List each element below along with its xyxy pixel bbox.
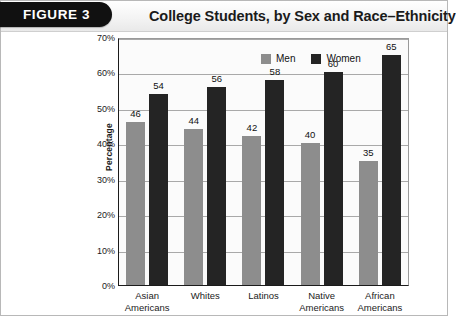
y-axis-tick-label: 20% (97, 210, 115, 220)
bar-value-label: 58 (270, 66, 281, 77)
bar-men[interactable]: 40 (301, 143, 320, 285)
x-axis-tick-label: NativeAmericans (299, 290, 344, 313)
bar-group: 4654 (119, 39, 177, 285)
bar-women[interactable]: 54 (149, 94, 168, 285)
x-axis-tick-label: AfricanAmericans (357, 290, 402, 313)
y-axis-tick-label: 0% (102, 281, 115, 291)
bar-value-label: 40 (305, 129, 316, 140)
chart-legend: MenWomen (261, 53, 361, 64)
figure-number-label: FIGURE 3 (23, 7, 90, 22)
bar-women[interactable]: 58 (265, 80, 284, 285)
bars-layer: 46544456425840603565 (119, 39, 408, 285)
bar-group: 4456 (177, 39, 235, 285)
bar-group: 4258 (235, 39, 293, 285)
bar-value-label: 42 (247, 122, 258, 133)
x-axis-tick-labels: AsianAmericansWhitesLatinosNativeAmerica… (118, 290, 409, 316)
y-axis-tick-labels: 0%10%20%30%40%50%60%70% (75, 38, 115, 286)
y-axis-tick-label: 30% (97, 175, 115, 185)
legend-item-women[interactable]: Women (311, 53, 360, 64)
legend-swatch-icon (311, 54, 321, 64)
bar-value-label: 35 (363, 147, 374, 158)
figure-title: College Students, by Sex and Race–Ethnic… (149, 1, 456, 31)
x-axis-tick-label: AsianAmericans (125, 290, 170, 313)
bar-men[interactable]: 46 (126, 122, 145, 285)
legend-item-men[interactable]: Men (261, 53, 295, 64)
bar-men[interactable]: 42 (242, 136, 261, 285)
bar-value-label: 44 (188, 115, 199, 126)
legend-label: Women (326, 53, 360, 64)
legend-label: Men (276, 53, 295, 64)
chart-area: Percentage 0%10%20%30%40%50%60%70% 46544… (1, 32, 447, 315)
y-axis-tick-label: 50% (97, 104, 115, 114)
y-axis-tick-label: 60% (97, 68, 115, 78)
bar-value-label: 46 (130, 108, 141, 119)
bar-value-label: 54 (153, 80, 164, 91)
bar-group: 3565 (352, 39, 409, 285)
legend-swatch-icon (261, 54, 271, 64)
bar-value-label: 56 (211, 73, 222, 84)
x-axis-tick-label: Whites (191, 290, 220, 302)
bar-group: 4060 (294, 39, 352, 285)
bar-women[interactable]: 60 (324, 72, 343, 285)
x-axis-tick-label: Latinos (248, 290, 279, 302)
bar-women[interactable]: 65 (382, 55, 401, 285)
y-axis-tick-label: 10% (97, 246, 115, 256)
bar-women[interactable]: 56 (207, 87, 226, 285)
figure-number-badge: FIGURE 3 (0, 2, 112, 27)
y-axis-tick-label: 70% (97, 33, 115, 43)
plot-area: 46544456425840603565 MenWomen (118, 38, 409, 286)
bar-men[interactable]: 44 (184, 129, 203, 285)
bar-men[interactable]: 35 (359, 161, 378, 285)
bar-value-label: 65 (386, 41, 397, 52)
y-axis-tick-label: 40% (97, 139, 115, 149)
figure-header: FIGURE 3 College Students, by Sex and Ra… (1, 1, 447, 32)
